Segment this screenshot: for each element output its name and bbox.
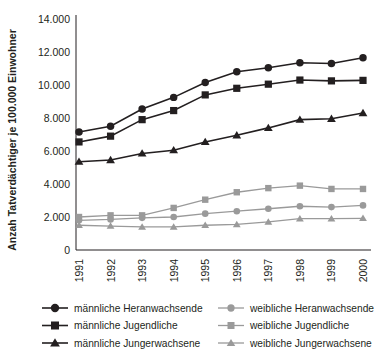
- x-tick-label: 1999: [325, 259, 337, 283]
- series-line: [79, 58, 363, 132]
- series-0: [75, 54, 366, 136]
- data-point-circle-marker: [360, 202, 367, 209]
- x-tick-label: 1991: [73, 259, 85, 283]
- y-tick-label: 2.000: [44, 211, 70, 223]
- legend-label: männliche Jungerwachsene: [74, 338, 201, 349]
- data-point-circle-marker: [265, 205, 272, 212]
- chart-canvas: Anzah Tatverdächtiger je 100.000 Einwohn…: [0, 0, 376, 356]
- legend-entry-2[interactable]: männliche Jungerwachsene: [42, 338, 201, 349]
- y-tick-label: 14.000: [38, 13, 70, 25]
- y-tick-label: 12.000: [38, 46, 70, 58]
- y-tick-label: 10.000: [38, 79, 70, 91]
- data-point-circle-marker: [233, 68, 240, 75]
- data-point-circle-marker: [296, 59, 303, 66]
- series-line: [79, 80, 363, 142]
- data-point-square-marker: [107, 133, 114, 140]
- legend-label: männliche Jugendliche: [74, 320, 178, 331]
- y-tick-label: 4.000: [44, 178, 70, 190]
- data-point-square-marker: [296, 76, 303, 83]
- data-point-circle-marker: [202, 210, 209, 217]
- x-tick-label: 1998: [294, 259, 306, 283]
- chart-legend: männliche Heranwachsendemännliche Jugend…: [42, 303, 374, 349]
- data-point-circle-marker: [297, 203, 304, 210]
- data-point-square-marker: [107, 212, 113, 218]
- data-point-square-marker: [233, 85, 240, 92]
- y-tick-label: 6.000: [44, 145, 70, 157]
- data-point-square-marker: [202, 196, 208, 202]
- x-tick-label: 1994: [168, 259, 180, 283]
- x-tick-label: 1997: [262, 259, 274, 283]
- data-point-circle-marker: [233, 208, 240, 215]
- data-series-group: [75, 54, 368, 230]
- data-point-square-marker: [202, 91, 209, 98]
- series-2: [75, 109, 368, 165]
- y-tick-label: 0: [64, 244, 70, 256]
- legend-entry-0[interactable]: männliche Heranwachsende: [42, 303, 203, 314]
- data-point-circle-marker: [265, 64, 272, 71]
- data-point-square-marker: [328, 186, 334, 192]
- data-point-circle-marker: [328, 204, 335, 211]
- legend-entry-5[interactable]: weibliche Jungerwachsene: [218, 338, 372, 349]
- legend-label: männliche Heranwachsende: [74, 303, 203, 314]
- data-point-circle-marker: [170, 94, 177, 101]
- data-point-triangle-marker: [359, 109, 368, 116]
- legend-entry-1[interactable]: männliche Jugendliche: [42, 320, 178, 331]
- data-point-square-marker: [139, 116, 146, 123]
- legend-square-marker: [51, 322, 59, 330]
- y-tick-label: 8.000: [44, 112, 70, 124]
- legend-label: weibliche Jungerwachsene: [249, 338, 372, 349]
- data-point-circle-marker: [328, 60, 335, 67]
- series-4: [76, 182, 366, 220]
- data-point-circle-marker: [359, 54, 366, 61]
- data-point-square-marker: [328, 77, 335, 84]
- data-point-square-marker: [76, 214, 82, 220]
- x-axis-tick-labels: 1991199219931994199519961997199819992000: [73, 259, 369, 283]
- series-5: [75, 215, 367, 230]
- legend-square-marker: [228, 322, 235, 329]
- data-point-circle-marker: [138, 105, 145, 112]
- data-point-square-marker: [265, 185, 271, 191]
- data-point-square-marker: [170, 107, 177, 114]
- data-point-square-marker: [265, 81, 272, 88]
- series-line: [79, 218, 363, 227]
- data-point-square-marker: [139, 212, 145, 218]
- legend-circle-marker: [227, 304, 234, 311]
- series-1: [75, 76, 366, 145]
- data-point-square-marker: [360, 186, 366, 192]
- legend-entry-4[interactable]: weibliche Jugendliche: [218, 320, 349, 331]
- line-chart-figure: Anzah Tatverdächtiger je 100.000 Einwohn…: [0, 0, 376, 356]
- data-point-circle-marker: [201, 79, 208, 86]
- y-axis-title: Anzah Tatverdächtiger je 100.000 Einwohn…: [6, 29, 18, 251]
- x-tick-label: 1995: [199, 259, 211, 283]
- y-axis-tick-labels: 02.0004.0006.0008.00010.00012.00014.000: [38, 13, 70, 256]
- x-tick-label: 2000: [357, 259, 369, 283]
- data-point-square-marker: [359, 77, 366, 84]
- data-point-circle-marker: [107, 123, 114, 130]
- x-tick-label: 1996: [231, 259, 243, 283]
- data-point-square-marker: [297, 182, 303, 188]
- series-3: [76, 202, 367, 224]
- legend-label: weibliche Jugendliche: [249, 320, 349, 331]
- data-point-circle-marker: [170, 214, 177, 221]
- legend-entry-3[interactable]: weibliche Heranwachsende: [218, 303, 374, 314]
- x-tick-label: 1992: [105, 259, 117, 283]
- legend-label: weibliche Heranwachsende: [249, 303, 374, 314]
- data-point-circle-marker: [75, 128, 82, 135]
- legend-circle-marker: [51, 304, 59, 312]
- x-tick-label: 1993: [136, 259, 148, 283]
- y-axis-title-group: Anzah Tatverdächtiger je 100.000 Einwohn…: [6, 29, 18, 251]
- data-point-square-marker: [234, 189, 240, 195]
- data-point-square-marker: [170, 205, 176, 211]
- data-point-square-marker: [75, 138, 82, 145]
